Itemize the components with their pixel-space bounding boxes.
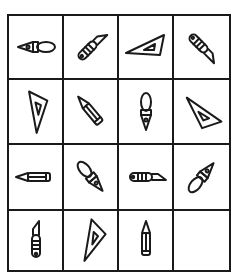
craft-knife-icon	[122, 153, 170, 201]
grid-cell-10[interactable]	[64, 145, 119, 211]
craft-knife-icon	[12, 217, 60, 265]
grid-cell-16-empty[interactable]	[174, 211, 229, 270]
grid-cell-9[interactable]	[9, 145, 64, 211]
craft-knife-icon	[67, 23, 115, 71]
grid-cell-5[interactable]	[9, 80, 64, 145]
pencil-icon	[122, 217, 170, 265]
fountain-pen-icon	[122, 88, 170, 136]
grid-cell-1[interactable]	[9, 16, 64, 80]
fountain-pen-icon	[178, 153, 226, 201]
craft-knife-icon	[178, 23, 226, 71]
grid-cell-8[interactable]	[174, 80, 229, 145]
grid-cell-6[interactable]	[64, 80, 119, 145]
grid-cell-3[interactable]	[119, 16, 174, 80]
set-square-icon	[67, 217, 115, 265]
grid-cell-4[interactable]	[174, 16, 229, 80]
fountain-pen-icon	[12, 23, 60, 71]
grid-cell-14[interactable]	[64, 211, 119, 270]
grid-cell-12[interactable]	[174, 145, 229, 211]
grid-cell-11[interactable]	[119, 145, 174, 211]
grid-cell-7[interactable]	[119, 80, 174, 145]
fountain-pen-icon	[67, 153, 115, 201]
pencil-icon	[67, 88, 115, 136]
icon-grid	[7, 14, 231, 272]
set-square-icon	[178, 88, 226, 136]
set-square-icon	[122, 23, 170, 71]
grid-cell-13[interactable]	[9, 211, 64, 270]
set-square-icon	[12, 88, 60, 136]
pencil-icon	[12, 153, 60, 201]
grid-cell-15[interactable]	[119, 211, 174, 270]
grid-cell-2[interactable]	[64, 16, 119, 80]
